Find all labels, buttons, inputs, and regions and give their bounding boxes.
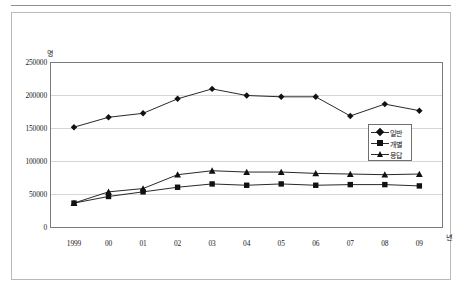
- x-axis-unit-label: 년: [446, 232, 453, 242]
- data-point-diamond: [243, 92, 249, 98]
- legend-label: 개별: [390, 139, 402, 149]
- y-tick-label: 250000: [5, 59, 47, 67]
- data-point-square: [313, 183, 318, 188]
- x-tick-label: 08: [381, 239, 388, 248]
- x-tick-label: 02: [174, 239, 181, 248]
- y-tick-label: 200000: [5, 92, 47, 100]
- legend-item-square: 개별: [369, 138, 411, 149]
- legend-marker-square-icon: [371, 139, 389, 148]
- data-point-square: [279, 181, 284, 186]
- data-point-diamond: [71, 124, 77, 130]
- data-point-diamond: [347, 113, 353, 119]
- data-point-diamond: [140, 110, 146, 116]
- y-tick-label: 0: [5, 224, 47, 232]
- line-chart: 050000100000150000200000250000 199900010…: [0, 0, 463, 293]
- x-tick-label: 06: [312, 239, 319, 248]
- x-tick-label: 00: [105, 239, 112, 248]
- data-point-diamond: [382, 101, 388, 107]
- x-tick-label: 03: [209, 239, 216, 248]
- x-tick-label: 09: [416, 239, 423, 248]
- legend-item-triangle: 응답: [369, 149, 411, 160]
- legend-item-diamond: 일반: [369, 127, 411, 138]
- data-point-diamond: [105, 114, 111, 120]
- data-point-square: [417, 183, 422, 188]
- x-tick-label: 04: [243, 239, 250, 248]
- y-axis-unit-label: 명: [47, 48, 53, 58]
- data-point-square: [209, 181, 214, 186]
- data-point-diamond: [313, 94, 319, 100]
- legend-label: 일반: [390, 128, 402, 138]
- chart-legend: 일반개별응답: [368, 124, 412, 161]
- x-tick-label: 01: [139, 239, 146, 248]
- data-point-square: [244, 183, 249, 188]
- series-1: [71, 181, 422, 206]
- x-tick-label: 07: [347, 239, 354, 248]
- data-point-square: [175, 185, 180, 190]
- data-point-triangle: [140, 185, 147, 191]
- legend-label: 응답: [390, 150, 402, 160]
- data-point-diamond: [416, 107, 422, 113]
- legend-marker-diamond-icon: [371, 128, 389, 137]
- data-point-square: [382, 182, 387, 187]
- data-point-diamond: [278, 94, 284, 100]
- y-tick-label: 50000: [5, 191, 47, 199]
- legend-marker-triangle-icon: [371, 150, 389, 159]
- x-tick-label: 05: [278, 239, 285, 248]
- y-tick-label: 150000: [5, 125, 47, 133]
- data-point-square: [348, 182, 353, 187]
- data-point-diamond: [174, 96, 180, 102]
- data-point-diamond: [209, 86, 215, 92]
- y-tick-label: 100000: [5, 158, 47, 166]
- x-tick-label: 1999: [67, 239, 81, 248]
